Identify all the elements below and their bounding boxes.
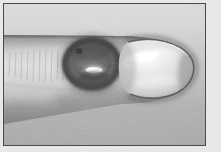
figure-plate [0, 0, 221, 152]
skin-lesion [56, 31, 128, 97]
lesion-punctum [76, 48, 83, 54]
clinical-photograph [4, 4, 205, 145]
photograph-raster [4, 4, 205, 145]
photo-frame-border [3, 3, 206, 146]
